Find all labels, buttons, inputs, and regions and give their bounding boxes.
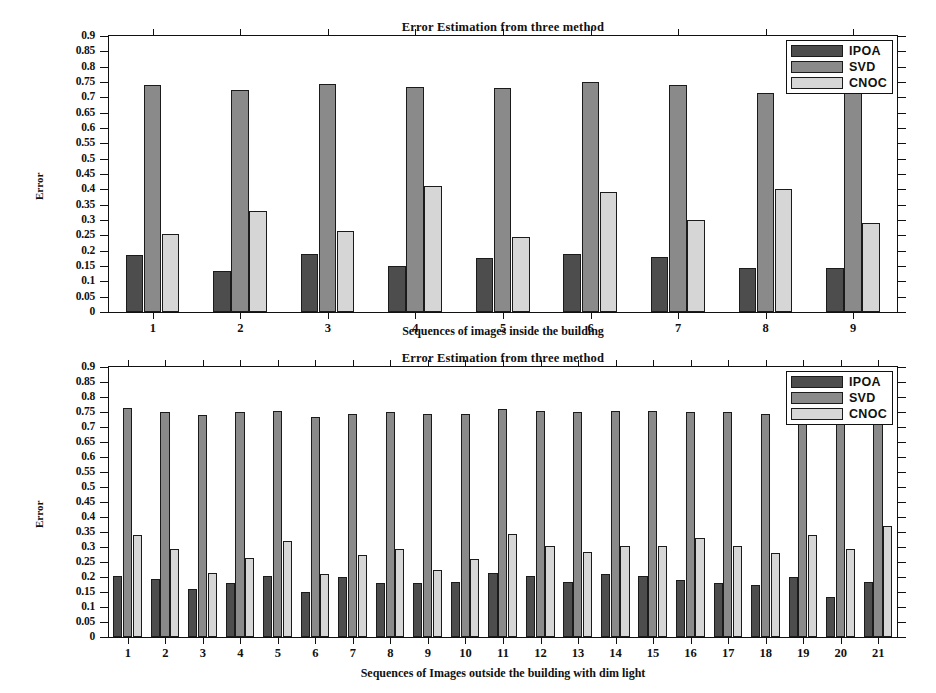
x-tick-top bbox=[128, 360, 129, 367]
y-tick: 0.4 bbox=[100, 189, 109, 190]
x-tick-label: 4 bbox=[237, 646, 243, 661]
bar-ipoa bbox=[526, 576, 535, 638]
bar-cnoc bbox=[620, 546, 629, 638]
bar-ipoa bbox=[676, 580, 685, 637]
y-tick-label: 0.05 bbox=[76, 290, 95, 302]
bar-cnoc bbox=[512, 237, 529, 312]
x-tick-label: 16 bbox=[684, 646, 697, 661]
bar-ipoa bbox=[826, 268, 843, 312]
x-tick-label: 17 bbox=[722, 646, 735, 661]
y-tick-right bbox=[897, 67, 906, 68]
y-tick: 0 bbox=[100, 312, 109, 313]
y-tick: 0.85 bbox=[100, 382, 109, 383]
bar-cnoc bbox=[424, 186, 441, 312]
x-tick-top bbox=[766, 29, 767, 36]
x-tick bbox=[353, 637, 354, 644]
y-tick-right bbox=[897, 607, 906, 608]
bar-ipoa bbox=[301, 592, 310, 637]
x-tick bbox=[766, 312, 767, 319]
legend-item-ipoa: IPOA bbox=[791, 44, 887, 58]
y-tick-right bbox=[897, 251, 906, 252]
x-tick bbox=[153, 312, 154, 319]
x-tick bbox=[803, 637, 804, 644]
bar-cnoc bbox=[775, 189, 792, 312]
bar-svd bbox=[319, 84, 336, 312]
y-tick: 0.15 bbox=[100, 592, 109, 593]
bar-ipoa bbox=[739, 268, 756, 312]
x-tick-top bbox=[315, 360, 316, 367]
bar-cnoc bbox=[771, 553, 780, 637]
bar-cnoc bbox=[208, 573, 217, 638]
legend-label-svd: SVD bbox=[849, 61, 876, 73]
x-tick-label: 5 bbox=[275, 646, 281, 661]
bar-cnoc bbox=[470, 559, 479, 637]
bar-ipoa bbox=[188, 589, 197, 637]
chart-panel-top: Error Estimation from three method Error… bbox=[0, 0, 936, 348]
x-tick-top bbox=[766, 360, 767, 367]
bar-svd bbox=[348, 414, 357, 638]
y-tick-label: 0.8 bbox=[81, 60, 95, 72]
y-tick-label: 0 bbox=[89, 630, 95, 642]
x-tick-top bbox=[278, 360, 279, 367]
x-tick-top bbox=[503, 360, 504, 367]
y-tick: 0.1 bbox=[100, 281, 109, 282]
legend-bottom: IPOA SVD CNOC bbox=[786, 371, 893, 425]
x-tick bbox=[616, 637, 617, 644]
bar-cnoc bbox=[337, 231, 354, 312]
x-tick bbox=[328, 312, 329, 319]
bar-cnoc bbox=[358, 555, 367, 638]
y-tick: 0.7 bbox=[100, 97, 109, 98]
y-tick-right bbox=[897, 442, 906, 443]
x-tick-label: 5 bbox=[500, 321, 506, 336]
bar-ipoa bbox=[714, 583, 723, 637]
bar-svd bbox=[198, 415, 207, 637]
x-tick-top bbox=[691, 360, 692, 367]
y-tick-label: 0.5 bbox=[81, 152, 95, 164]
bar-cnoc bbox=[245, 558, 254, 638]
legend-item-ipoa: IPOA bbox=[791, 375, 887, 389]
x-tick bbox=[678, 312, 679, 319]
x-tick-label: 8 bbox=[763, 321, 769, 336]
y-tick-label: 0.35 bbox=[76, 525, 95, 537]
y-tick: 0.25 bbox=[100, 235, 109, 236]
bar-cnoc bbox=[846, 549, 855, 638]
y-tick: 0.75 bbox=[100, 412, 109, 413]
bar-ipoa bbox=[488, 573, 497, 638]
x-tick bbox=[503, 637, 504, 644]
y-tick-label: 0.35 bbox=[76, 198, 95, 210]
bar-cnoc bbox=[862, 223, 879, 312]
x-tick-label: 13 bbox=[572, 646, 585, 661]
x-tick-label: 14 bbox=[609, 646, 622, 661]
bar-cnoc bbox=[170, 549, 179, 638]
x-tick-label: 12 bbox=[534, 646, 547, 661]
x-tick-top bbox=[503, 29, 504, 36]
legend-swatch-svd bbox=[791, 392, 843, 404]
bar-svd bbox=[582, 82, 599, 312]
y-tick-label: 0.6 bbox=[81, 450, 95, 462]
x-tick bbox=[578, 637, 579, 644]
x-tick-label: 19 bbox=[797, 646, 810, 661]
y-tick: 0.3 bbox=[100, 547, 109, 548]
y-tick: 0.35 bbox=[100, 205, 109, 206]
y-tick-right bbox=[897, 174, 906, 175]
bar-svd bbox=[648, 411, 657, 638]
bar-svd bbox=[386, 412, 395, 637]
y-tick-label: 0.15 bbox=[76, 585, 95, 597]
y-tick: 0.5 bbox=[100, 159, 109, 160]
bar-svd bbox=[231, 90, 248, 312]
y-tick: 0.9 bbox=[100, 367, 109, 368]
y-tick-label: 0.65 bbox=[76, 106, 95, 118]
y-tick: 0.35 bbox=[100, 532, 109, 533]
y-tick-label: 0.8 bbox=[81, 390, 95, 402]
x-tick-label: 1 bbox=[125, 646, 131, 661]
bar-svd bbox=[494, 88, 511, 312]
y-tick: 0.15 bbox=[100, 266, 109, 267]
x-tick-top bbox=[653, 360, 654, 367]
x-tick-label: 20 bbox=[834, 646, 847, 661]
x-tick-top bbox=[878, 360, 879, 367]
y-tick: 0.25 bbox=[100, 562, 109, 563]
bar-svd bbox=[836, 418, 845, 637]
y-tick: 0.65 bbox=[100, 442, 109, 443]
x-tick bbox=[415, 312, 416, 319]
x-tick bbox=[503, 312, 504, 319]
